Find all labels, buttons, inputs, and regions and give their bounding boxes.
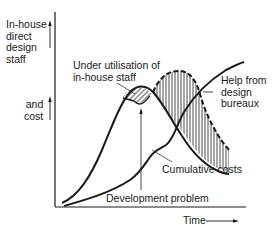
y-label-line: and <box>24 99 43 111</box>
development-problem-arrow-icon <box>139 108 142 190</box>
y-label-line: cost <box>24 111 43 123</box>
annotation-line: in-house staff <box>73 72 160 84</box>
y-axis-label-cost: and cost <box>24 99 43 122</box>
cost-label-arrow-up-icon <box>48 96 51 120</box>
time-arrow-icon <box>206 219 239 222</box>
annotation-line: Under utilisation of <box>73 60 160 72</box>
y-label-line: In-house <box>6 19 47 31</box>
axes <box>55 12 246 207</box>
y-label-line: staff <box>6 54 47 66</box>
help-from-bureaux-region <box>152 71 229 173</box>
cumulative-costs-label: Cumulative costs <box>162 164 242 176</box>
annotation-line: Help from <box>221 75 267 87</box>
annotation-line: bureaux <box>221 98 267 110</box>
y-label-arrow-up-icon <box>48 20 51 48</box>
under-utilisation-leader <box>117 83 135 94</box>
help-from-bureaux-label: Help from design bureaux <box>221 75 267 110</box>
cumulative-costs-leader <box>152 150 172 162</box>
under-utilisation-label: Under utilisation of in-house staff <box>73 60 160 83</box>
y-axis-label-staff: In-house direct design staff <box>6 19 47 65</box>
time-axis-label: Time <box>183 215 206 227</box>
y-label-line: design <box>6 42 47 54</box>
development-problem-label: Development problem <box>106 193 209 205</box>
